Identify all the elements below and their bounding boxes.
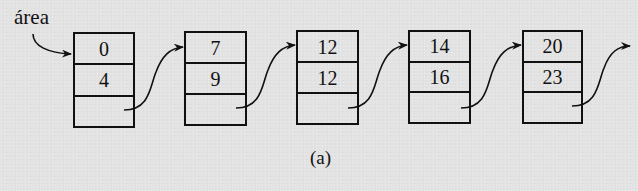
node-field-1: 0 [75, 34, 133, 63]
node-field-2: 9 [186, 62, 245, 93]
list-node: 14 16 [408, 30, 471, 124]
node-field-1: 12 [298, 32, 357, 61]
node-pointer-field [186, 93, 245, 124]
node-field-2: 4 [75, 63, 133, 94]
node-field-2: 12 [298, 61, 357, 92]
node-field-1: 7 [186, 33, 245, 62]
list-node: 0 4 [73, 32, 135, 128]
node-pointer-field [298, 92, 357, 123]
diagram-canvas: área 0 4 7 9 12 12 14 16 20 23 [0, 0, 638, 191]
figure-caption: (a) [310, 147, 331, 169]
list-node: 12 12 [296, 30, 359, 125]
head-arrow-icon [33, 34, 71, 54]
node-pointer-field [524, 91, 581, 122]
node-field-2: 16 [410, 61, 469, 92]
list-node: 20 23 [522, 30, 583, 124]
list-node: 7 9 [184, 31, 247, 126]
node-field-2: 23 [524, 61, 581, 92]
node-field-1: 14 [410, 32, 469, 61]
head-pointer-label: área [14, 5, 49, 29]
node-pointer-field [410, 91, 469, 122]
node-pointer-field [75, 95, 133, 126]
node-field-1: 20 [524, 32, 581, 61]
